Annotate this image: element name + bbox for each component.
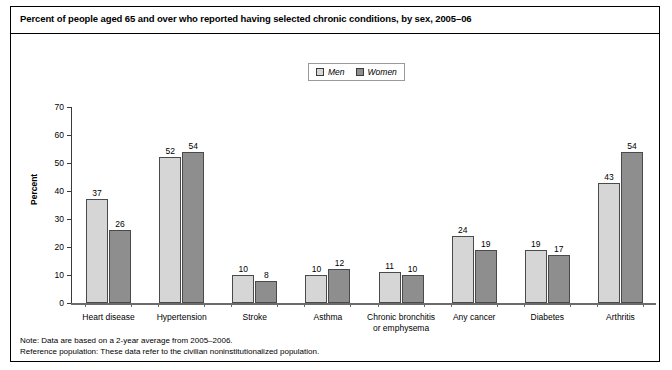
page-title: Percent of people aged 65 and over who r… [20, 13, 472, 24]
y-tick-label: 10 [55, 270, 64, 280]
bar-group: 4354Arthritis [598, 107, 643, 303]
bar-value-label: 19 [531, 239, 540, 249]
bar-women: 8 [255, 281, 277, 303]
x-tick-mark [277, 303, 278, 307]
legend-swatch-icon [356, 68, 364, 76]
y-tick-label: 30 [55, 214, 64, 224]
x-tick-mark [497, 303, 498, 307]
x-tick-mark [204, 303, 205, 307]
y-tick-mark [67, 275, 71, 276]
bar-men: 52 [159, 157, 181, 303]
x-axis-label: Arthritis [565, 312, 672, 323]
legend-label: Men [328, 67, 345, 77]
x-tick-mark [131, 303, 132, 307]
y-tick-mark [67, 219, 71, 220]
y-tick-label: 60 [55, 130, 64, 140]
y-tick-mark [67, 191, 71, 192]
bar-value-label: 54 [627, 141, 636, 151]
y-tick-label: 70 [55, 102, 64, 112]
bar-group: 1110Chronic bronchitisor emphysema [379, 107, 424, 303]
bar-women: 19 [475, 250, 497, 303]
legend-label: Women [368, 67, 397, 77]
y-tick-label: 50 [55, 158, 64, 168]
bar-value-label: 26 [115, 219, 124, 229]
bar-value-label: 54 [188, 141, 197, 151]
x-tick-mark [643, 303, 644, 307]
bar-value-label: 10 [312, 264, 321, 274]
bar-value-label: 8 [264, 270, 269, 280]
x-tick-mark [304, 303, 305, 307]
x-tick-mark [451, 303, 452, 307]
bar-group: 5254Hypertension [159, 107, 204, 303]
bar-women: 54 [621, 152, 643, 303]
title-bar: Percent of people aged 65 and over who r… [11, 7, 659, 34]
bar-men: 11 [379, 272, 401, 303]
x-tick-mark [158, 303, 159, 307]
bar-value-label: 24 [458, 225, 467, 235]
chart-legend: MenWomen [308, 63, 405, 81]
x-tick-mark [85, 303, 86, 307]
x-axis-label-line: or emphysema [346, 323, 456, 334]
legend-item-men: Men [316, 67, 345, 77]
y-tick-mark [67, 303, 71, 304]
bar-group: 1012Asthma [305, 107, 350, 303]
bar-value-label: 10 [408, 264, 417, 274]
bar-women: 26 [109, 230, 131, 303]
bar-women: 54 [182, 152, 204, 303]
y-tick-label: 20 [55, 242, 64, 252]
y-tick-mark [67, 247, 71, 248]
y-axis-label: Percent [29, 174, 39, 205]
bar-women: 10 [402, 275, 424, 303]
x-tick-mark [424, 303, 425, 307]
bar-value-label: 10 [239, 264, 248, 274]
y-tick-label: 0 [59, 298, 64, 308]
bar-value-label: 37 [92, 188, 101, 198]
x-tick-mark [231, 303, 232, 307]
bar-value-label: 17 [554, 244, 563, 254]
bar-value-label: 43 [604, 172, 613, 182]
bar-group: 2419Any cancer [452, 107, 497, 303]
bar-women: 12 [328, 269, 350, 303]
legend-swatch-icon [316, 68, 324, 76]
x-tick-mark [570, 303, 571, 307]
x-tick-mark [524, 303, 525, 307]
bar-women: 17 [548, 255, 570, 303]
note-line-1: Note: Data are based on a 2-year average… [20, 335, 319, 346]
figure-panel: Percent of people aged 65 and over who r… [10, 6, 660, 362]
note-line-2: Reference population: These data refer t… [20, 346, 319, 357]
bar-men: 24 [452, 236, 474, 303]
y-tick-mark [67, 135, 71, 136]
bar-men: 37 [86, 199, 108, 303]
bar-group: 3726Heart disease [86, 107, 131, 303]
y-tick-label: 40 [55, 186, 64, 196]
footnotes: Note: Data are based on a 2-year average… [20, 335, 319, 357]
y-tick-mark [67, 107, 71, 108]
x-axis-label-line: Arthritis [565, 312, 672, 323]
bar-men: 43 [598, 183, 620, 303]
legend-item-women: Women [356, 67, 397, 77]
bar-value-label: 11 [385, 261, 394, 271]
bar-men: 19 [525, 250, 547, 303]
bar-men: 10 [305, 275, 327, 303]
x-tick-mark [378, 303, 379, 307]
y-tick-mark [67, 163, 71, 164]
bar-value-label: 19 [481, 239, 490, 249]
bar-value-label: 12 [335, 258, 344, 268]
x-tick-mark [350, 303, 351, 307]
x-tick-mark [597, 303, 598, 307]
bar-men: 10 [232, 275, 254, 303]
bar-group: 1917Diabetes [525, 107, 570, 303]
bar-value-label: 52 [165, 146, 174, 156]
plot-area: 010203040506070 3726Heart disease5254Hyp… [71, 107, 656, 303]
bar-group: 108Stroke [232, 107, 277, 303]
y-axis-line [71, 107, 72, 303]
